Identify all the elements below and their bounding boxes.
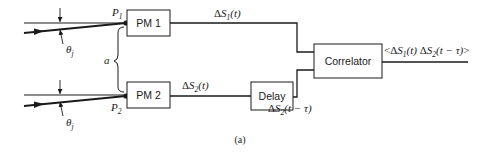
output-label: <ΔS1(t) ΔS2(t − τ)>	[384, 44, 469, 59]
input-beam-top: θj	[24, 8, 126, 58]
signal-label-s2-delayed: ΔS2(t − τ)	[268, 102, 312, 117]
point-label-p2: P2	[110, 101, 122, 116]
angle-arrow-up-icon	[60, 30, 63, 44]
angle-label-bottom: θj	[66, 116, 74, 131]
signal-label-s2: ΔS2(t)	[182, 79, 209, 94]
angle-label-top: θj	[66, 43, 74, 58]
pm2-label: PM 2	[136, 89, 161, 101]
figure-caption: (a)	[234, 134, 245, 146]
separation-brace	[114, 27, 124, 92]
signal-line-s2-delayed	[293, 70, 314, 97]
signal-line-s1	[170, 23, 314, 52]
correlator-label: Correlator	[325, 55, 372, 67]
separation-label: a	[104, 54, 110, 66]
delay-label: Delay	[259, 90, 287, 102]
correlation-block-diagram: θj P1 θj P2 a PM 1 PM 2 ΔS1(t) ΔS2(t) De…	[0, 0, 499, 153]
angle-arrow-up-icon	[60, 102, 63, 116]
signal-label-s1: ΔS1(t)	[214, 7, 241, 22]
point-label-p1: P1	[111, 6, 122, 21]
pm1-label: PM 1	[136, 17, 161, 29]
